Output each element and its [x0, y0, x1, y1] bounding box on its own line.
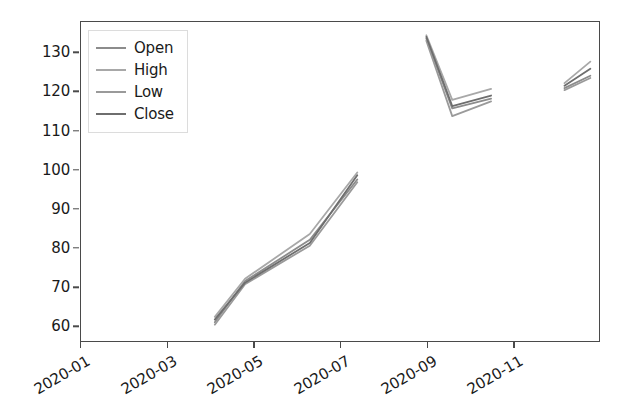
chart-figure: 60708090100110120130 2020-012020-032020-…: [0, 0, 622, 411]
legend-line-swatch: [96, 91, 126, 93]
x-axis-tick-label: 2020-03: [98, 352, 180, 410]
y-axis-tick-mark: [73, 52, 79, 53]
series-line-close: [215, 175, 357, 319]
x-axis-tick-mark: [253, 342, 254, 348]
y-axis-tick-label: 130: [42, 43, 70, 61]
y-axis-tick-mark: [73, 208, 79, 209]
y-axis-tick-mark: [73, 286, 79, 287]
legend-line-swatch: [96, 47, 126, 49]
y-axis-tick-mark: [73, 130, 79, 131]
y-axis-tick-label: 70: [51, 278, 70, 296]
legend-line-swatch: [96, 69, 126, 71]
y-axis-tick-labels: 60708090100110120130: [0, 0, 70, 411]
legend-item[interactable]: Close: [96, 103, 180, 125]
y-axis-tick-label: 90: [51, 200, 70, 218]
y-axis-tick-label: 60: [51, 317, 70, 335]
y-axis-tick-mark: [73, 91, 79, 92]
y-axis-tick-mark: [73, 326, 79, 327]
legend-item-label: High: [134, 63, 168, 78]
y-axis-tick-mark: [73, 169, 79, 170]
y-axis-tick-label: 80: [51, 239, 70, 257]
legend-item-label: Low: [134, 85, 163, 100]
x-axis-tick-mark: [80, 342, 81, 348]
chart-legend: OpenHighLowClose: [88, 30, 188, 133]
legend-item-label: Close: [134, 107, 174, 122]
legend-item[interactable]: Open: [96, 37, 180, 59]
y-axis-tick-label: 120: [42, 82, 70, 100]
x-axis-tick-label: 2020-07: [271, 352, 353, 410]
legend-item[interactable]: Low: [96, 81, 180, 103]
x-axis-tick-mark: [513, 342, 514, 348]
x-axis-tick-label: 2020-09: [358, 352, 440, 410]
legend-item[interactable]: High: [96, 59, 180, 81]
y-axis-tick-label: 110: [42, 122, 70, 140]
x-axis-tick-mark: [427, 342, 428, 348]
x-axis-tick-label: 2020-11: [445, 352, 527, 410]
legend-line-swatch: [96, 113, 126, 115]
legend-item-label: Open: [134, 41, 173, 56]
x-axis-tick-mark: [167, 342, 168, 348]
series-line-low: [215, 182, 357, 324]
y-axis-tick-label: 100: [42, 161, 70, 179]
y-axis-tick-mark: [73, 247, 79, 248]
x-axis-tick-label: 2020-05: [185, 352, 267, 410]
x-axis-tick-mark: [340, 342, 341, 348]
